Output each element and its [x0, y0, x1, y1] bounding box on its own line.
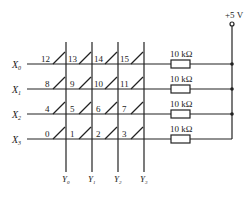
column-label-y0: Y0	[62, 174, 70, 185]
svg-text:4: 4	[45, 104, 50, 114]
keypad-matrix-diagram: +5 V X0 X1 X2 X3 12131415 891011 4567 01…	[0, 0, 251, 200]
key-labels: 12131415 891011 4567 0123	[41, 54, 130, 139]
resistor-label: 10 kΩ	[170, 49, 193, 59]
resistor	[171, 60, 190, 68]
supply-label: +5 V	[225, 10, 244, 20]
row-label-x1: X1	[11, 84, 21, 96]
column-label-y1: Y1	[88, 174, 96, 185]
svg-text:8: 8	[45, 79, 50, 89]
svg-text:10: 10	[94, 79, 104, 89]
row-label-x2: X2	[11, 109, 21, 121]
svg-text:3: 3	[122, 129, 127, 139]
resistor	[171, 110, 190, 118]
resistor	[171, 135, 190, 143]
resistor	[171, 85, 190, 93]
svg-text:14: 14	[94, 54, 104, 64]
svg-text:0: 0	[45, 129, 50, 139]
svg-text:12: 12	[41, 54, 50, 64]
svg-text:7: 7	[122, 104, 127, 114]
svg-text:2: 2	[96, 129, 101, 139]
svg-text:9: 9	[70, 79, 75, 89]
svg-text:5: 5	[70, 104, 75, 114]
svg-text:15: 15	[120, 54, 130, 64]
resistor-label: 10 kΩ	[170, 99, 193, 109]
svg-text:1: 1	[70, 129, 75, 139]
svg-text:11: 11	[120, 79, 129, 89]
column-label-y2: Y2	[114, 174, 122, 185]
svg-text:6: 6	[96, 104, 101, 114]
supply-terminal	[230, 22, 234, 26]
resistor-label: 10 kΩ	[170, 124, 193, 134]
svg-text:13: 13	[68, 54, 78, 64]
row-label-x3: X3	[11, 134, 21, 146]
resistor-label: 10 kΩ	[170, 74, 193, 84]
column-label-y3: Y3	[140, 174, 148, 185]
row-label-x0: X0	[11, 59, 21, 71]
